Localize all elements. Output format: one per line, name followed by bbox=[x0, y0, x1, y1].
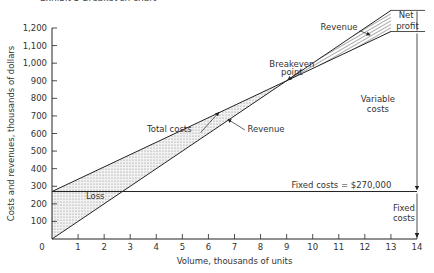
x-tick-label: 0 bbox=[39, 242, 44, 252]
x-tick-label: 13 bbox=[386, 242, 397, 252]
y-axis-title: Costs and revenues, thousands of dollars bbox=[6, 45, 16, 221]
variable-costs-label: Variable bbox=[361, 94, 395, 104]
y-tick-label: 500 bbox=[31, 146, 47, 156]
x-tick-label: 1 bbox=[75, 242, 80, 252]
revenue-line bbox=[52, 10, 391, 239]
fixed-costs-bracket-label: Fixed bbox=[393, 203, 415, 213]
y-tick-label: 800 bbox=[31, 93, 47, 103]
fixed-costs-label: Fixed costs = $270,000 bbox=[291, 180, 391, 190]
y-tick-label: 300 bbox=[31, 181, 47, 191]
y-tick-label: 900 bbox=[31, 76, 47, 86]
y-tick-label: 600 bbox=[31, 129, 47, 139]
fixed-costs-bracket-label-2: costs bbox=[393, 213, 416, 223]
x-tick-label: 11 bbox=[333, 242, 344, 252]
revenue-label-lower: Revenue bbox=[248, 124, 285, 134]
x-tick-label: 8 bbox=[258, 242, 263, 252]
x-tick-label: 12 bbox=[359, 242, 370, 252]
y-tick-label: 100 bbox=[31, 216, 47, 226]
x-tick-label: 7 bbox=[232, 242, 237, 252]
y-tick-label: 1,000 bbox=[23, 58, 47, 68]
y-tick-label: 1,100 bbox=[23, 41, 47, 51]
y-tick-label: 200 bbox=[31, 199, 47, 209]
x-tick-label: 14 bbox=[412, 242, 423, 252]
x-tick-label: 3 bbox=[128, 242, 133, 252]
x-tick-label: 2 bbox=[101, 242, 106, 252]
y-tick-label: 700 bbox=[31, 111, 47, 121]
breakeven-label-2: point bbox=[281, 67, 303, 77]
y-tick-label: 400 bbox=[31, 164, 47, 174]
x-tick-label: 4 bbox=[154, 242, 159, 252]
net-profit-label-2: profit bbox=[396, 21, 419, 31]
x-axis-title: Volume, thousands of units bbox=[177, 256, 293, 266]
y-tick-label: 1,200 bbox=[23, 23, 47, 33]
x-tick-label: 6 bbox=[206, 242, 211, 252]
variable-costs-label-2: costs bbox=[367, 104, 390, 114]
x-tick-label: 5 bbox=[180, 242, 185, 252]
net-profit-label: Net bbox=[399, 10, 415, 20]
loss-label: Loss bbox=[86, 191, 105, 201]
revenue-pointer-lower bbox=[228, 119, 245, 130]
total-costs-line bbox=[52, 32, 391, 192]
plot-area: 0123456789101112131410020030040050060070… bbox=[6, 10, 425, 266]
x-tick-label: 10 bbox=[307, 242, 318, 252]
breakeven-chart: 0123456789101112131410020030040050060070… bbox=[0, 0, 434, 273]
revenue-label-upper: Revenue bbox=[321, 22, 358, 32]
x-tick-label: 9 bbox=[284, 242, 289, 252]
total-costs-label: Total costs bbox=[146, 124, 192, 134]
